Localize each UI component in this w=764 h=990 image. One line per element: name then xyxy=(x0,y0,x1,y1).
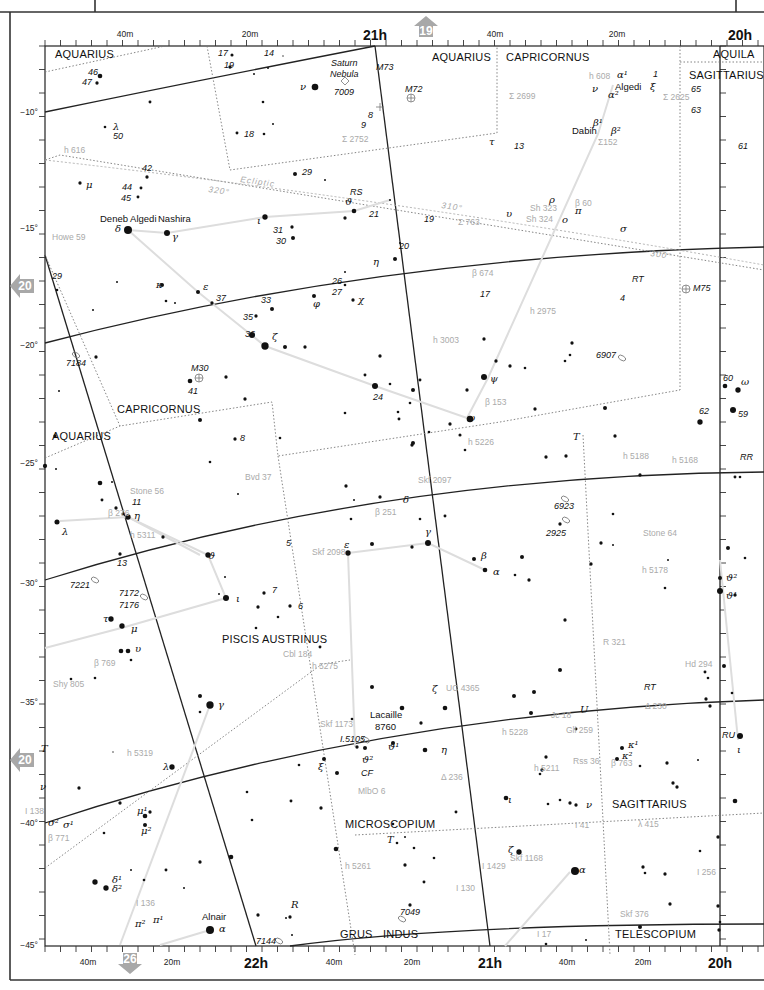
star xyxy=(404,836,406,838)
catalog-label: 47 xyxy=(82,77,93,87)
star xyxy=(664,587,667,590)
star xyxy=(112,751,113,752)
star xyxy=(737,733,743,739)
catalog-label: 7144 xyxy=(256,936,276,946)
star xyxy=(734,476,737,479)
double-star-label: Skf 1168 xyxy=(510,853,543,863)
constellation-label: INDUS xyxy=(383,928,418,940)
catalog-label: 1 xyxy=(653,69,658,79)
page-link-bottom[interactable]: 26 xyxy=(118,952,142,974)
star xyxy=(539,773,542,776)
double-star-label: MlbO 6 xyxy=(358,786,386,796)
star xyxy=(279,437,282,440)
catalog-label: 29 xyxy=(301,167,312,177)
star xyxy=(103,832,106,835)
double-star-label: Cbl 184 xyxy=(283,649,313,659)
star xyxy=(143,879,146,882)
bayer-label: ι xyxy=(257,215,261,226)
ecliptic-label: 320° xyxy=(208,184,231,197)
star xyxy=(94,677,97,680)
star xyxy=(165,869,168,872)
catalog-label: 26 xyxy=(331,276,342,286)
page-link-left_upper[interactable]: 20 xyxy=(10,274,34,298)
double-star-label: Skf 1173 xyxy=(320,719,353,729)
star xyxy=(118,801,121,804)
star xyxy=(730,407,736,413)
star xyxy=(735,387,740,392)
bayer-label: ϑ² xyxy=(726,572,737,583)
star xyxy=(644,872,647,875)
bayer-label: R xyxy=(290,899,299,910)
catalog-label: 11 xyxy=(132,497,141,507)
bayer-label: μ¹ xyxy=(137,805,148,816)
star xyxy=(544,455,547,458)
star xyxy=(370,685,374,689)
star xyxy=(585,939,587,941)
star xyxy=(198,860,201,863)
star xyxy=(410,545,413,548)
star xyxy=(708,704,711,707)
star xyxy=(344,412,347,415)
double-star-label: β 674 xyxy=(472,268,494,278)
star xyxy=(255,627,258,630)
bayer-label: ϑ xyxy=(345,196,352,207)
star xyxy=(298,764,301,767)
star xyxy=(174,302,176,304)
star xyxy=(455,811,458,814)
galaxy-icon xyxy=(90,576,99,584)
double-star-label: Skf 376 xyxy=(620,909,649,919)
star xyxy=(731,692,734,695)
dec-axis-label: −35° xyxy=(20,697,38,707)
constellation-label: GRUS xyxy=(340,928,373,940)
star xyxy=(409,402,412,405)
star xyxy=(119,623,124,628)
bayer-label: ε xyxy=(203,281,208,292)
star xyxy=(56,289,59,292)
bayer-label: α xyxy=(579,864,586,875)
bayer-label: μ xyxy=(131,623,138,634)
star xyxy=(378,354,381,357)
star xyxy=(444,515,447,518)
double-star-label: h 5319 xyxy=(127,748,153,758)
star xyxy=(206,926,214,934)
double-star-label: Stone 56 xyxy=(130,486,164,496)
star xyxy=(403,863,406,866)
star xyxy=(571,867,579,875)
star xyxy=(148,810,151,813)
catalog-label: 50 xyxy=(113,131,123,141)
star-name-label: 8760 xyxy=(375,721,396,732)
star xyxy=(423,881,426,884)
double-star-label: Σ 2699 xyxy=(509,91,536,101)
page-link-left_lower[interactable]: 20 xyxy=(10,748,34,772)
double-star-label: β 153 xyxy=(485,397,507,407)
star xyxy=(425,540,431,546)
catalog-label: 7049 xyxy=(400,907,420,917)
star xyxy=(188,379,193,384)
double-star-label: h 5261 xyxy=(345,861,371,871)
double-star-label: h 3003 xyxy=(433,335,459,345)
star xyxy=(334,847,339,852)
page-link-arrows[interactable]: 19202026 xyxy=(10,16,438,974)
star xyxy=(704,671,707,674)
star xyxy=(149,101,152,104)
double-star-label: Δ 236 xyxy=(441,772,463,782)
star xyxy=(704,697,707,700)
star xyxy=(564,454,567,457)
star xyxy=(464,449,467,452)
star xyxy=(547,803,550,806)
bayer-label: σ¹ xyxy=(63,819,74,830)
star xyxy=(665,761,668,764)
ra-axis-label-bottom: 20h xyxy=(708,955,732,971)
catalog-label: 18 xyxy=(244,129,254,139)
dec-axis-label: −15° xyxy=(20,223,38,233)
bayer-label: λ xyxy=(61,526,68,537)
catalog-label: 35 xyxy=(243,312,254,322)
double-star-label: I 17 xyxy=(537,929,551,939)
star xyxy=(118,552,121,555)
star xyxy=(256,605,259,608)
bayer-label: π¹ xyxy=(152,914,164,925)
page-link-top[interactable]: 19 xyxy=(414,16,438,38)
catalog-label: 8 xyxy=(368,110,373,120)
star xyxy=(236,132,239,135)
bayer-label: τ xyxy=(489,136,495,147)
